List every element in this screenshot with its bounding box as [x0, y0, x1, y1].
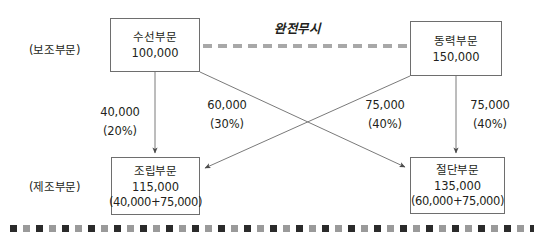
cost-allocation-diagram: 완전무시 (보조부문) (제조부문) 수선부문 100,000 동력부문 150…: [0, 0, 542, 239]
complete-ignore-note: 완전무시: [274, 18, 320, 37]
flow-amount-power-to-assembly: 75,000: [350, 96, 420, 115]
no-interaction-divider: [203, 44, 407, 48]
flow-percent-repair-to-cutting: (30%): [192, 115, 262, 134]
box-cutting-amount: 135,000: [434, 178, 481, 194]
support-department-label: (보조부문): [29, 41, 80, 57]
flow-amount-power-to-cutting: 75,000: [455, 96, 525, 115]
flow-amount-repair-to-cutting: 60,000: [192, 96, 262, 115]
flow-label-power-to-assembly: 75,000 (40%): [350, 96, 420, 134]
box-power-amount: 150,000: [433, 49, 480, 65]
flow-label-repair-to-cutting: 60,000 (30%): [192, 96, 262, 134]
manufacturing-department-label: (제조부문): [29, 178, 80, 194]
box-power-department[interactable]: 동력부문 150,000: [410, 21, 502, 76]
box-assembly-detail: (40,000+75,000): [109, 195, 202, 210]
box-repair-department[interactable]: 수선부문 100,000: [110, 18, 200, 72]
flow-label-power-to-cutting: 75,000 (40%): [455, 96, 525, 134]
box-power-name: 동력부문: [434, 33, 477, 49]
bottom-dotted-border: [10, 225, 534, 232]
box-cutting-name: 절단부문: [436, 162, 479, 178]
flow-percent-repair-to-assembly: (20%): [85, 122, 155, 141]
box-assembly-amount: 115,000: [132, 179, 179, 195]
box-cutting-department[interactable]: 절단부문 135,000 (60,000+75,000): [410, 157, 505, 214]
box-assembly-name: 조립부문: [134, 163, 177, 179]
flow-percent-power-to-assembly: (40%): [350, 115, 420, 134]
flow-amount-repair-to-assembly: 40,000: [85, 103, 155, 122]
flow-label-repair-to-assembly: 40,000 (20%): [85, 103, 155, 141]
flow-percent-power-to-cutting: (40%): [455, 115, 525, 134]
box-assembly-department[interactable]: 조립부문 115,000 (40,000+75,000): [111, 157, 200, 215]
box-repair-name: 수선부문: [133, 29, 176, 45]
box-cutting-detail: (60,000+75,000): [411, 194, 504, 209]
box-repair-amount: 100,000: [132, 45, 179, 61]
